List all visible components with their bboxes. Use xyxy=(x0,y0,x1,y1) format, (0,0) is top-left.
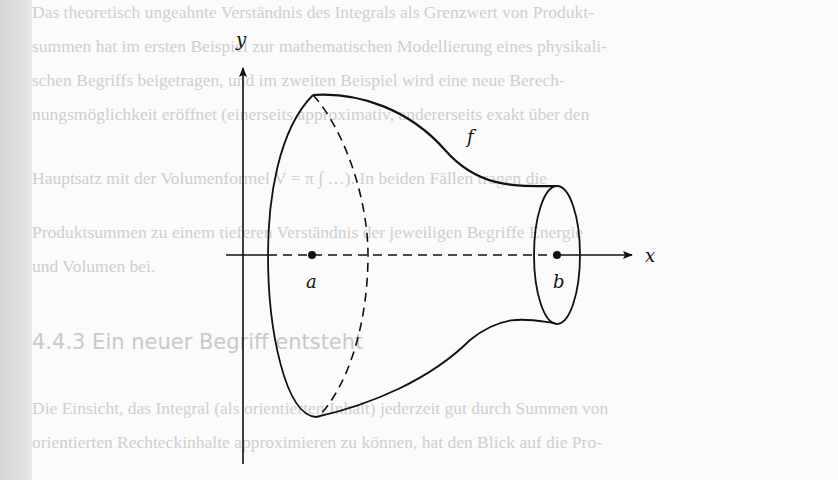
point-b-label: b xyxy=(553,271,565,292)
solid-of-revolution-figure: y x a b f xyxy=(0,0,838,480)
point-a-label: a xyxy=(306,271,317,292)
function-f-label: f xyxy=(465,126,477,147)
x-axis-label: x xyxy=(645,245,655,266)
y-axis-label: y xyxy=(235,29,247,50)
function-curve-lower xyxy=(316,320,555,417)
point-a xyxy=(308,251,316,259)
point-b xyxy=(553,251,561,259)
left-disk-back-edge xyxy=(313,95,368,417)
function-curve-upper xyxy=(313,95,555,186)
